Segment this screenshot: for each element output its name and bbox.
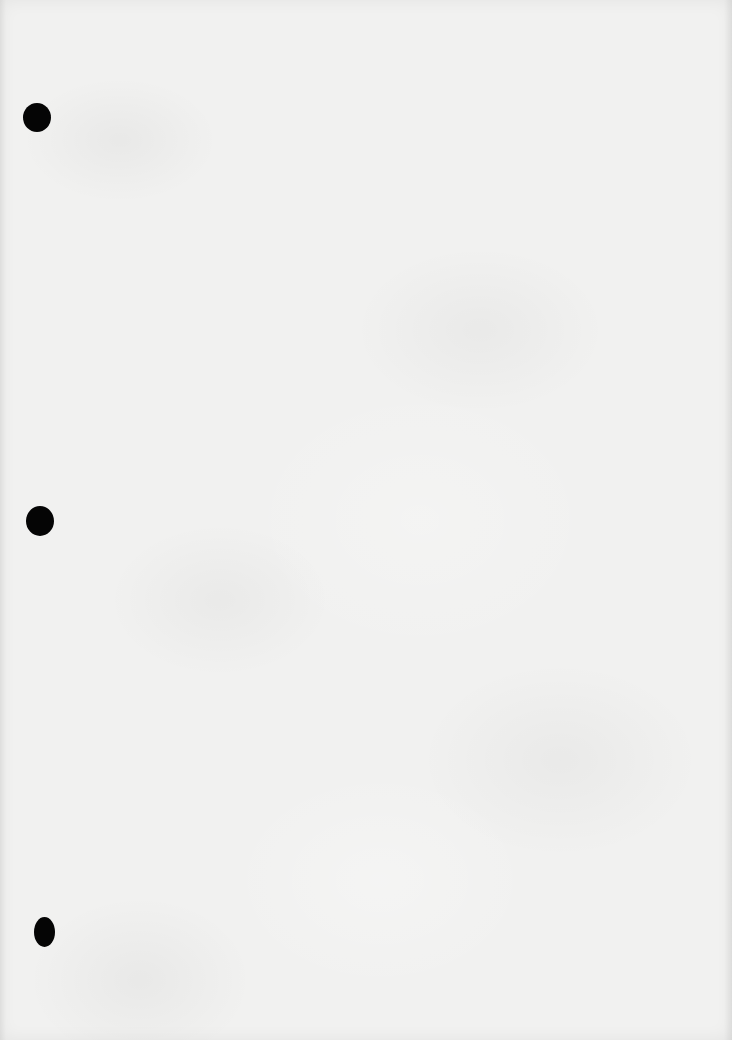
punch-hole-bottom — [34, 917, 55, 947]
punch-hole-top — [23, 103, 51, 132]
blank-paper-sheet — [0, 0, 732, 1040]
paper-edge-right — [724, 0, 732, 1040]
punch-hole-middle — [26, 506, 54, 536]
paper-edge-left — [0, 0, 6, 1040]
